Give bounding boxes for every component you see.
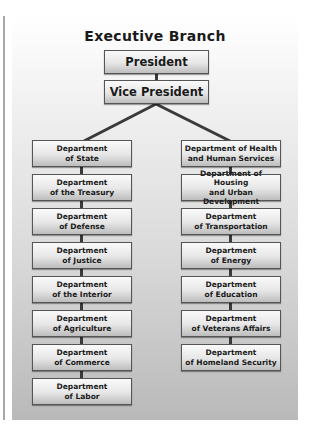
node-label-line2: of Commerce — [54, 358, 110, 368]
node-dept-energy: Department of Energy — [181, 242, 281, 269]
node-dept-hhs: Department of Health and Human Services — [181, 140, 281, 167]
node-label-line1: Department of Housing — [182, 169, 280, 188]
node-dept-treasury: Department of the Treasury — [32, 174, 132, 201]
node-label-line1: Department of Health — [185, 144, 277, 154]
node-label: President — [125, 55, 187, 69]
node-dept-defense: Department of Defense — [32, 208, 132, 235]
node-label-line2: of Defense — [59, 222, 105, 232]
node-dept-hud: Department of Housing and Urban Developm… — [181, 174, 281, 201]
node-dept-labor: Department of Labor — [32, 378, 132, 405]
node-label-line2: of Homeland Security — [185, 358, 276, 368]
node-label-line1: Department — [57, 246, 108, 256]
node-label-line2: and Human Services — [188, 154, 274, 164]
node-label-line2: of Transportation — [194, 222, 267, 232]
node-dept-homeland-security: Department of Homeland Security — [181, 344, 281, 371]
node-dept-transportation: Department of Transportation — [181, 208, 281, 235]
node-label-line1: Department — [206, 348, 257, 358]
node-label-line2: of Education — [204, 290, 257, 300]
node-label-line2: of Agriculture — [53, 324, 112, 334]
node-label-line2: of Veterans Affairs — [191, 324, 270, 334]
node-label: Vice President — [110, 85, 204, 99]
node-label-line2: of Labor — [64, 392, 99, 402]
node-label-line1: Department — [57, 348, 108, 358]
node-label-line2: of the Treasury — [50, 188, 114, 198]
node-label-line1: Department — [57, 280, 108, 290]
node-dept-agriculture: Department of Agriculture — [32, 310, 132, 337]
node-dept-commerce: Department of Commerce — [32, 344, 132, 371]
node-label-line2: of State — [65, 154, 99, 164]
node-label-line2: of the Interior — [52, 290, 112, 300]
node-label-line1: Department — [206, 212, 257, 222]
node-label-line1: Department — [57, 314, 108, 324]
node-dept-justice: Department of Justice — [32, 242, 132, 269]
node-dept-education: Department of Education — [181, 276, 281, 303]
node-label-line1: Department — [57, 144, 108, 154]
node-label-line1: Department — [57, 382, 108, 392]
node-label-line1: Department — [206, 314, 257, 324]
node-label-line1: Department — [206, 246, 257, 256]
node-label-line1: Department — [206, 280, 257, 290]
node-label-line2: and Urban Development — [182, 188, 280, 207]
node-dept-state: Department of State — [32, 140, 132, 167]
node-president: President — [104, 50, 209, 74]
node-dept-interior: Department of the Interior — [32, 276, 132, 303]
node-label-line1: Department — [57, 212, 108, 222]
node-dept-veterans-affairs: Department of Veterans Affairs — [181, 310, 281, 337]
node-label-line2: of Energy — [211, 256, 252, 266]
node-label-line2: of Justice — [62, 256, 101, 266]
node-label-line1: Department — [57, 178, 108, 188]
node-vice-president: Vice President — [104, 80, 209, 104]
